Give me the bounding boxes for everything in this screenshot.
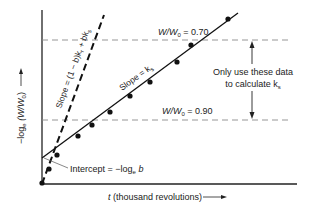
data-point <box>147 79 152 84</box>
intercept-leader <box>44 158 68 168</box>
data-point <box>127 93 132 98</box>
data-point <box>46 166 51 171</box>
note-text-line2: to calculate ks <box>225 79 281 90</box>
svg-text:−loge (W/W0): −loge (W/W0) <box>16 92 27 144</box>
data-point <box>89 122 94 127</box>
arrow-down-icon <box>250 112 255 119</box>
note-text-line1: Only use these data <box>213 67 293 77</box>
reference-label-070: W/W0 = 0.70 <box>158 27 209 38</box>
y-axis-arrow-icon <box>19 68 23 74</box>
intercept-label: Intercept = −loge b <box>70 164 143 175</box>
data-point <box>188 42 193 47</box>
x-axis-arrow-icon <box>221 195 227 199</box>
chart: Only use these data to calculate ks W/W0… <box>0 0 313 214</box>
data-point <box>174 59 179 64</box>
data-point <box>225 16 230 21</box>
data-point <box>75 133 80 138</box>
data-points <box>39 16 230 185</box>
arrow-up-icon <box>250 41 255 48</box>
x-axis-label: t (thousand revolutions) <box>108 192 202 202</box>
y-axis-label: −loge (W/W0) <box>16 92 27 144</box>
data-point <box>54 152 59 157</box>
reference-label-090: W/W0 = 0.90 <box>162 106 213 117</box>
data-point <box>39 180 44 185</box>
data-point <box>107 109 112 114</box>
